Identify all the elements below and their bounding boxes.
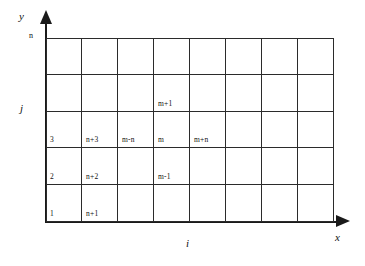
grid-cell-label: n+2 [86,173,98,181]
grid-cell [82,75,118,112]
grid-cell [190,38,226,75]
i-index-label: i [186,238,189,249]
grid-cell [46,38,82,75]
grid-cell-label: m-n [122,136,135,144]
grid-cell-label: n+1 [86,210,98,218]
n-tick-label: n [29,32,33,40]
grid-index-diagram: y x i j n m+13n+3m-nmm+n2n+2m-11n+1 [0,0,365,266]
grid-cell-label: n+3 [86,136,98,144]
grid-cell [298,75,334,112]
grid-cell [262,185,298,222]
grid-cell [82,38,118,75]
x-axis-label: x [335,232,340,243]
grid-cell-label: m [158,136,164,144]
grid-cell [118,185,154,222]
grid-cell [154,185,190,222]
grid-cell [190,148,226,185]
grid-cell [226,75,262,112]
grid-cell [118,38,154,75]
grid-cell-label: m+1 [158,100,172,108]
grid-cell [226,112,262,149]
grid-cell [154,38,190,75]
grid-cell-label: 1 [50,210,54,218]
y-axis-label: y [19,11,24,22]
grid-cell [298,148,334,185]
grid-cell [190,185,226,222]
grid-cell [262,38,298,75]
grid-cell [226,185,262,222]
grid-cell [226,148,262,185]
grid-cell [298,185,334,222]
grid-cell-label: 3 [50,136,54,144]
x-axis-arrow-icon [336,215,350,227]
grid-cell [262,148,298,185]
grid-cell [262,75,298,112]
grid-cell [262,112,298,149]
y-axis-arrow-icon [40,10,52,24]
grid-area: m+13n+3m-nmm+n2n+2m-11n+1 [46,38,334,222]
grid-cell [226,38,262,75]
grid-cell-label: m-1 [158,173,171,181]
grid-cell [190,75,226,112]
grid-cell-label: m+n [194,136,208,144]
grid-cell [298,112,334,149]
grid-cell [46,75,82,112]
grid-cell [118,75,154,112]
grid-cell [298,38,334,75]
j-index-label: j [20,103,23,114]
grid-cell [118,148,154,185]
grid-cell-label: 2 [50,173,54,181]
